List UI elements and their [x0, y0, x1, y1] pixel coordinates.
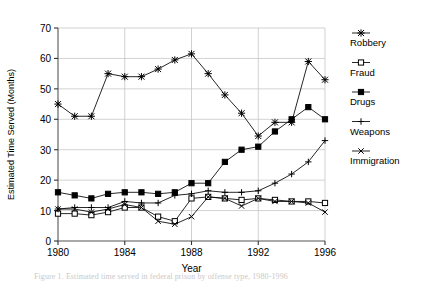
legend-item-drugs[interactable]: Drugs — [350, 89, 376, 107]
series-marker — [139, 190, 144, 195]
series-marker — [322, 200, 327, 205]
series-marker — [89, 196, 94, 201]
x-tick-label: 1992 — [247, 247, 270, 258]
y-tick-label: 60 — [40, 53, 52, 64]
legend-label: Drugs — [350, 96, 376, 107]
series-marker — [72, 193, 77, 198]
legend-label: Immigration — [350, 155, 400, 166]
x-tick-label: 1984 — [114, 247, 137, 258]
series-marker — [322, 117, 327, 122]
legend-marker-filled-square-icon — [358, 89, 363, 94]
legend-item-robbery[interactable]: Robbery — [350, 29, 386, 48]
y-tick-label: 70 — [40, 23, 52, 34]
legend-label: Weapons — [350, 126, 390, 137]
y-tick-label: 0 — [45, 236, 51, 247]
series-marker — [156, 191, 161, 196]
x-tick-label: 1988 — [180, 247, 203, 258]
series-marker — [222, 159, 227, 164]
series-marker — [306, 105, 311, 110]
y-tick-label: 20 — [40, 175, 52, 186]
legend-item-immigration[interactable]: Immigration — [350, 148, 400, 166]
legend-item-weapons[interactable]: Weapons — [350, 118, 390, 136]
line-chart: 01020304050607019801984198819921996YearE… — [0, 0, 426, 286]
chart-figure: 01020304050607019801984198819921996YearE… — [0, 0, 426, 286]
gridlines — [58, 28, 325, 241]
series-marker — [189, 181, 194, 186]
series-marker — [206, 181, 211, 186]
y-tick-label: 30 — [40, 145, 52, 156]
series-marker — [256, 144, 261, 149]
y-tick-label: 10 — [40, 206, 52, 217]
y-tick-label: 50 — [40, 84, 52, 95]
figure-caption: Figure 1. Estimated time served in feder… — [34, 272, 406, 286]
series-marker — [239, 147, 244, 152]
series-marker — [156, 214, 161, 219]
series-marker — [122, 190, 127, 195]
y-axis-title: Estimated Time Served (Months) — [6, 69, 16, 200]
x-axis-ticks: 19801984198819921996 — [47, 241, 337, 258]
y-tick-label: 40 — [40, 114, 52, 125]
series-marker — [72, 211, 77, 216]
series-marker — [239, 197, 244, 202]
legend-item-fraud[interactable]: Fraud — [350, 60, 375, 78]
series-marker — [105, 191, 110, 196]
legend-marker-open-square-icon — [358, 60, 363, 65]
legend: RobberyFraudDrugsWeaponsImmigration — [350, 29, 400, 166]
series-marker — [55, 190, 60, 195]
legend-label: Fraud — [350, 67, 375, 78]
series-marker — [272, 129, 277, 134]
legend-label: Robbery — [350, 37, 386, 48]
x-tick-label: 1980 — [47, 247, 70, 258]
series-marker — [289, 117, 294, 122]
x-tick-label: 1996 — [314, 247, 337, 258]
